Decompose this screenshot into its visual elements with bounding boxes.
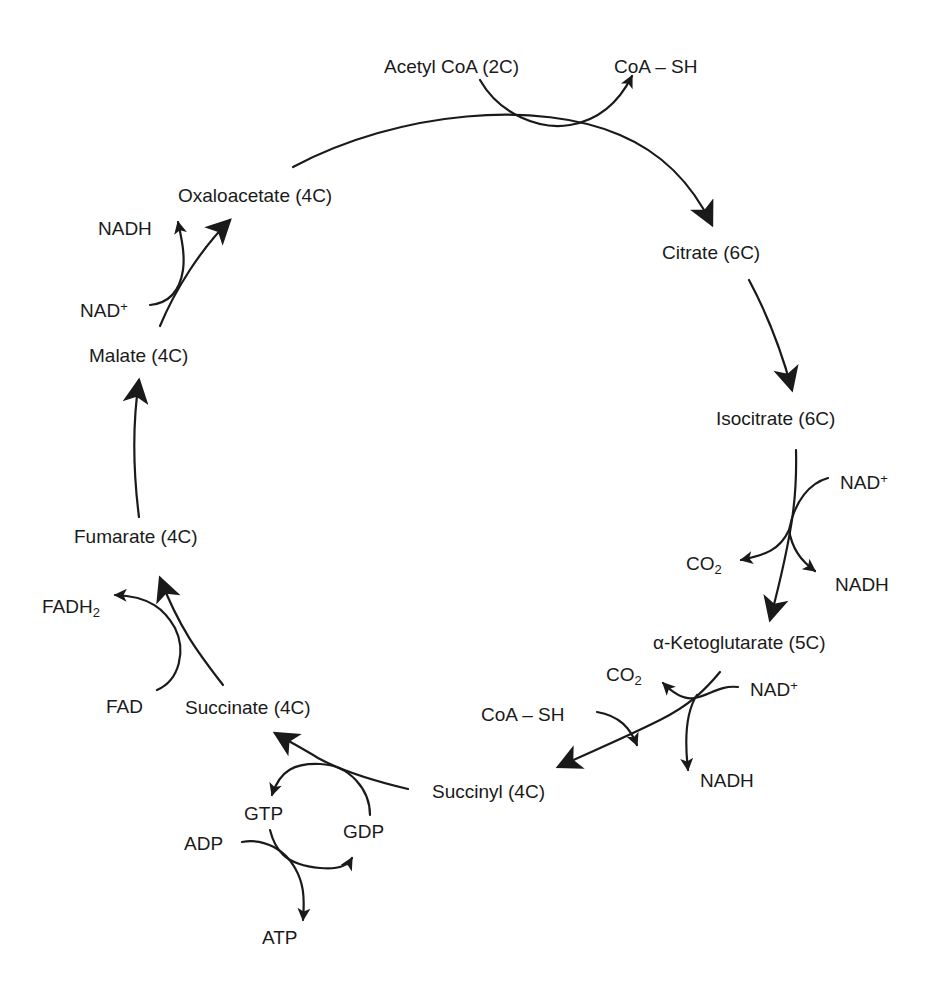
label-citrate: Citrate (6C) [662, 243, 760, 262]
arrow-nad-into-akg [663, 683, 738, 698]
arrow-to-nadh-akg [686, 695, 697, 770]
label-fadh2: FADH2 [42, 597, 100, 619]
label-nadh-malate: NADH [98, 219, 152, 238]
label-gdp: GDP [343, 822, 384, 841]
arrow-citrate-to-isocitrate [749, 280, 792, 390]
arrow-malate-to-oxaloacetate [160, 220, 230, 326]
label-malate: Malate (4C) [89, 346, 188, 365]
arrow-succinyl-to-succinate [275, 733, 408, 789]
arrow-succinate-to-fumarate [160, 578, 223, 685]
cycle-arrows [0, 0, 944, 998]
label-isocitrate: Isocitrate (6C) [716, 409, 835, 428]
label-alpha-ketoglutarate: α-Ketoglutarate (5C) [653, 633, 826, 652]
label-nadh-isocitrate: NADH [835, 575, 889, 594]
arrow-to-nadh-isocitrate [789, 530, 815, 571]
arrow-oxaloacetate-to-citrate [293, 115, 712, 225]
arrow-nad-into-isocitrate [741, 478, 828, 560]
arrow-fumarate-to-malate [135, 380, 140, 517]
arrow-gtp-to-gdp [270, 830, 352, 868]
label-oxaloacetate: Oxaloacetate (4C) [178, 186, 332, 205]
label-gtp: GTP [244, 804, 283, 823]
arrow-isocitrate-to-akg [770, 450, 796, 620]
label-adp: ADP [184, 834, 223, 853]
label-succinyl: Succinyl (4C) [432, 782, 545, 801]
arrow-nad-to-nadh-malate [150, 222, 184, 305]
label-atp: ATP [262, 928, 298, 947]
label-coa-sh-top: CoA – SH [614, 57, 697, 76]
label-coa-sh-akg: CoA – SH [481, 705, 564, 724]
label-nad-isocitrate: NAD+ [840, 472, 888, 492]
krebs-cycle-diagram: Acetyl CoA (2C) CoA – SH Oxaloacetate (4… [0, 0, 944, 998]
label-acetyl-coa: Acetyl CoA (2C) [384, 57, 519, 76]
label-co2-isocitrate: CO2 [686, 554, 722, 576]
arrow-adp-to-atp [242, 841, 304, 920]
label-nad-akg: NAD+ [750, 679, 798, 699]
label-co2-akg: CO2 [606, 665, 642, 687]
label-nad-malate: NAD+ [80, 300, 128, 320]
label-fad: FAD [106, 697, 143, 716]
label-succinate: Succinate (4C) [185, 698, 311, 717]
label-fumarate: Fumarate (4C) [74, 527, 198, 546]
label-nadh-akg: NADH [700, 771, 754, 790]
arrow-gdp-to-gtp [272, 764, 370, 815]
arrow-fad-to-fadh2 [115, 595, 180, 690]
